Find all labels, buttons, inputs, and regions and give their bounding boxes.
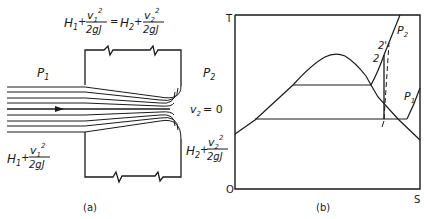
outlet-energy-expression: H2 + v22 2gJ (186, 134, 228, 162)
inlet-energy-expression: H1 + v12 2gJ (7, 142, 50, 170)
stagnation-velocity-label: v2= 0 (190, 103, 223, 118)
svg-text:v22: v22 (144, 7, 160, 24)
svg-text:v12: v12 (87, 7, 103, 24)
energy-equation-top: H1 + v12 2gJ = H2 + v22 2gJ (64, 7, 164, 35)
svg-text:2gJ: 2gJ (29, 159, 45, 170)
control-volume-top-wall (85, 46, 181, 86)
y-axis-label-T: T (225, 13, 233, 24)
inlet-pressure-label: P1 (37, 66, 49, 82)
svg-text:H2: H2 (186, 144, 200, 160)
ts-axes-frame (235, 15, 420, 189)
panel-b-ts-diagram: T O S P2 P1 2' 2 1 (b) (225, 13, 420, 213)
svg-text:H2: H2 (120, 16, 134, 32)
control-volume-bottom-wall (85, 132, 181, 182)
outlet-pressure-label: P2 (203, 66, 215, 82)
isobar-p1-label: P1 (404, 90, 415, 105)
origin-label: O (226, 184, 234, 195)
x-axis-label-S: S (414, 194, 420, 205)
flow-arrow-icon (55, 106, 64, 112)
saturation-dome (235, 54, 420, 140)
svg-text:+: + (134, 16, 142, 27)
svg-text:H1: H1 (64, 16, 78, 32)
svg-text:=: = (110, 16, 118, 27)
state-2-prime-label: 2' (378, 40, 387, 51)
state-2-label: 2 (373, 53, 379, 64)
diagram-canvas: H1 + v12 2gJ = H2 + v22 2gJ P1 P2 v2= 0 … (0, 0, 424, 219)
svg-text:v12: v12 (30, 142, 46, 159)
panel-a-stagnation-flow: H1 + v12 2gJ = H2 + v22 2gJ P1 P2 v2= 0 … (7, 7, 228, 213)
streamlines (7, 86, 181, 139)
svg-text:H1: H1 (7, 152, 21, 168)
svg-text:v22: v22 (208, 134, 224, 151)
panel-b-caption: (b) (316, 202, 330, 213)
isobar-p2-label: P2 (397, 24, 409, 39)
svg-text:2gJ: 2gJ (86, 24, 102, 35)
panel-a-caption: (a) (83, 202, 97, 213)
svg-text:2gJ: 2gJ (207, 151, 223, 162)
svg-text:2gJ: 2gJ (143, 24, 159, 35)
